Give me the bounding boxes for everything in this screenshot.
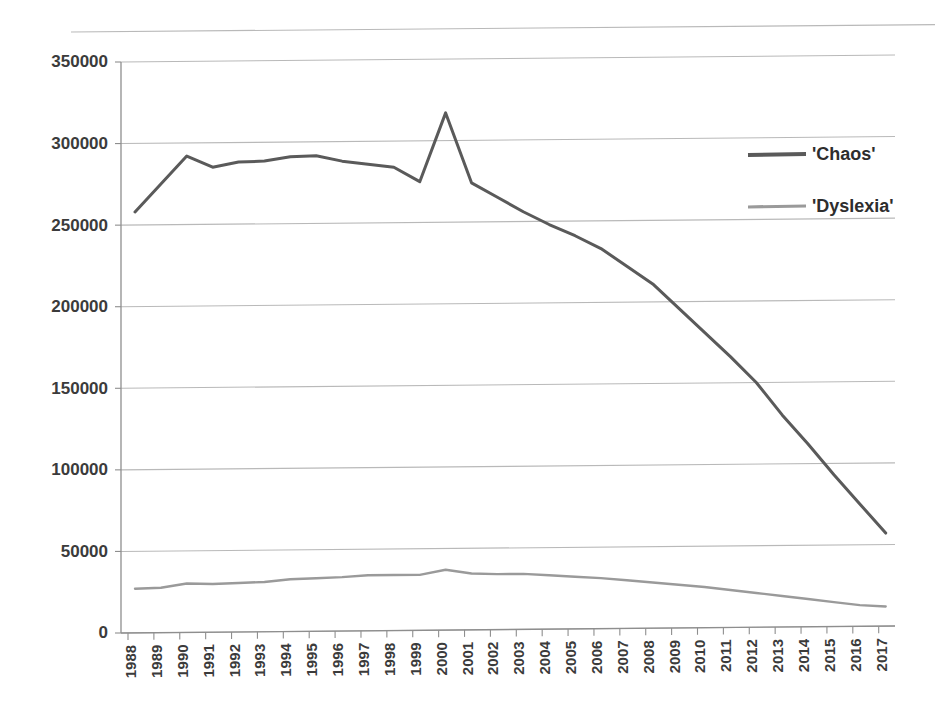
- y-tick-label: 350000: [51, 52, 108, 71]
- gridline-200000: [121, 300, 895, 307]
- legend-swatch-dyslexia: [748, 206, 806, 207]
- gridlines: [71, 25, 935, 633]
- x-tick-label: 2012: [743, 639, 760, 672]
- gridline-100000: [121, 463, 895, 470]
- x-tick-label: 2002: [484, 642, 501, 675]
- x-tick-label: 1988: [122, 645, 139, 678]
- y-axis: [115, 62, 121, 633]
- x-tick-label: 2013: [769, 639, 786, 672]
- y-tick-label: 150000: [51, 379, 108, 398]
- x-axis: [121, 626, 895, 640]
- x-tick-label: 2011: [717, 639, 734, 672]
- legend-swatch-chaos: [748, 154, 806, 155]
- x-tick-label: 1992: [226, 644, 243, 677]
- series-line-chaos: [135, 113, 886, 533]
- x-tick-label: 2004: [536, 640, 553, 674]
- x-tick-label: 2003: [510, 641, 527, 674]
- x-tick-label: 2015: [821, 639, 838, 672]
- gridline-350000: [121, 55, 895, 62]
- gridline-50000: [121, 544, 895, 551]
- x-tick-label: 2008: [640, 640, 657, 673]
- x-tick-label: 2006: [588, 641, 605, 674]
- x-axis-tick-labels: 1988198919901991199219931994199519961997…: [122, 638, 890, 678]
- x-tick-label: 2010: [691, 640, 708, 673]
- gridline-300000: [121, 137, 895, 144]
- x-tick-label: 1991: [200, 644, 217, 677]
- x-tick-label: 1993: [251, 644, 268, 677]
- legend-label-chaos: 'Chaos': [812, 144, 876, 164]
- page-rule-top: [71, 25, 935, 32]
- x-tick-label: 2009: [666, 640, 683, 673]
- x-tick-label: 1990: [174, 644, 191, 677]
- x-tick-label: 2000: [433, 642, 450, 675]
- x-tick-label: 2017: [873, 638, 890, 671]
- y-tick-label: 50000: [61, 542, 108, 561]
- chart-legend: 'Chaos''Dyslexia': [748, 144, 894, 216]
- line-chart: 0500001000001500002000002500003000003500…: [0, 0, 942, 716]
- x-tick-label: 1999: [407, 642, 424, 675]
- x-tick-label: 1998: [381, 643, 398, 676]
- x-tick-label: 1996: [329, 643, 346, 676]
- y-tick-label: 0: [99, 623, 108, 642]
- x-tick-label: 2001: [459, 642, 476, 675]
- x-tick-label: 1995: [303, 643, 320, 676]
- x-tick-label: 1989: [148, 645, 165, 678]
- x-tick-label: 1997: [355, 643, 372, 676]
- y-tick-label: 300000: [51, 134, 108, 153]
- x-tick-label: 2016: [847, 638, 864, 671]
- x-tick-label: 2014: [795, 638, 812, 672]
- legend-label-dyslexia: 'Dyslexia': [812, 196, 894, 216]
- x-tick-label: 2007: [614, 640, 631, 673]
- series-line-dyslexia: [135, 570, 886, 607]
- gridline-250000: [121, 218, 895, 225]
- gridline-150000: [121, 381, 895, 388]
- y-tick-label: 100000: [51, 460, 108, 479]
- y-tick-label: 250000: [51, 216, 108, 235]
- x-tick-label: 1994: [277, 643, 294, 677]
- data-series: [135, 113, 886, 607]
- y-axis-tick-labels: 0500001000001500002000002500003000003500…: [51, 52, 108, 642]
- chart-container: 0500001000001500002000002500003000003500…: [0, 0, 942, 716]
- x-axis-line: [121, 626, 895, 633]
- x-tick-label: 2005: [562, 641, 579, 674]
- y-tick-label: 200000: [51, 297, 108, 316]
